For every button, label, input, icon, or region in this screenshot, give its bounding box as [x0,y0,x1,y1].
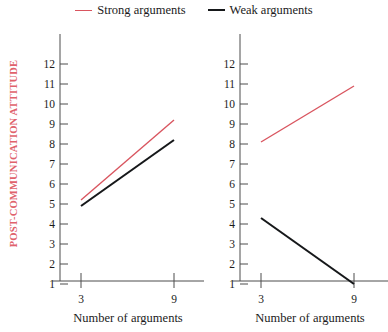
left-panel-y-tick-label: 1 [49,278,55,290]
right-panel-series [261,86,354,284]
right-panel-x-tick-label: 3 [258,293,264,305]
left-panel-y-tick-label: 6 [49,178,55,190]
left-panel-y-tick-label: 10 [44,98,56,110]
left-panel-y-tick-label: 5 [49,198,55,210]
left-panel-x-tick-label: 3 [78,293,84,305]
left-panel-y-tick-label: 3 [49,238,55,250]
left-panel-y-tick-label: 4 [49,218,55,230]
legend-label-strong-arguments: Strong arguments [97,4,185,17]
right-panel-y-tick-label: 3 [229,238,235,250]
right-panel-y-tick-label: 6 [229,178,235,190]
right-panel-series-strong-arguments [261,86,354,142]
right-panel-x-title: Number of arguments [255,311,365,325]
legend-item-weak-arguments: Weak arguments [208,4,313,17]
right-panel-x-tick-label: 9 [351,293,357,305]
right-panel-y-tick-label: 5 [229,198,235,210]
legend-swatch-weak-arguments [208,9,225,11]
right-panel-y-tick-label: 12 [224,58,236,70]
legend-label-weak-arguments: Weak arguments [230,4,313,17]
right-panel-y-tick-label: 4 [229,218,235,230]
left-panel: 121110987654321 39 Number of arguments [24,26,204,332]
left-panel-y-ticks: 121110987654321 [44,58,69,290]
right-panel-y-tick-label: 1 [229,278,235,290]
left-panel-y-tick-label: 12 [44,58,56,70]
left-panel-y-tick-label: 11 [44,78,55,90]
left-panel-y-tick-label: 2 [49,258,55,270]
right-panel-y-tick-label: 11 [224,78,235,90]
right-panel: 121110987654321 39 Number of arguments [204,26,388,332]
right-panel-y-ticks: 121110987654321 [224,58,249,290]
left-panel-y-tick-label: 8 [49,138,55,150]
right-panel-y-tick-label: 9 [229,118,235,130]
y-axis-title: POST-COMMUNICATION ATTITUDE [2,28,26,278]
figure-root: Strong arguments Weak arguments POST-COM… [0,0,388,332]
right-panel-y-tick-label: 7 [229,158,235,170]
left-panel-y-tick-label: 9 [49,118,55,130]
right-panel-series-weak-arguments [261,218,354,284]
chart-legend: Strong arguments Weak arguments [0,0,388,20]
left-panel-x-tick-label: 9 [171,293,177,305]
right-panel-y-tick-label: 10 [224,98,236,110]
right-panel-y-tick-label: 2 [229,258,235,270]
right-panel-y-tick-label: 8 [229,138,235,150]
left-panel-series-strong-arguments [81,120,174,200]
y-axis-title-text: POST-COMMUNICATION ATTITUDE [9,59,20,247]
left-panel-series [81,120,174,206]
left-panel-svg: 121110987654321 39 Number of arguments [24,26,204,332]
left-panel-series-weak-arguments [81,140,174,206]
left-panel-y-tick-label: 7 [49,158,55,170]
legend-swatch-strong-arguments [75,10,92,11]
right-panel-x-ticks: 39 [258,273,357,305]
left-panel-x-ticks: 39 [78,273,177,305]
right-panel-svg: 121110987654321 39 Number of arguments [204,26,388,332]
legend-item-strong-arguments: Strong arguments [75,4,185,17]
left-panel-x-title: Number of arguments [73,311,183,325]
